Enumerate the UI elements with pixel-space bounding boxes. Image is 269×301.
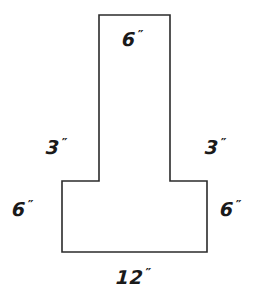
- inch-mark-icon: ″: [221, 136, 226, 149]
- dimension-label-bottom: 12″: [116, 266, 150, 287]
- dimension-label-top: 6″: [122, 28, 143, 49]
- t-shape-outline: [62, 15, 207, 252]
- dimension-label-right-lower: 6″: [220, 198, 241, 219]
- inch-mark-icon: ″: [236, 198, 241, 211]
- inch-mark-icon: ″: [138, 28, 143, 41]
- dimension-value-bottom: 12: [115, 268, 144, 287]
- dimension-value-top: 6: [121, 30, 136, 49]
- inch-mark-icon: ″: [28, 198, 33, 211]
- dimension-label-right-upper: 3″: [205, 136, 226, 157]
- dimension-value-right-lower: 6: [219, 200, 234, 219]
- dimension-value-left-lower: 6: [11, 200, 26, 219]
- dimension-value-left-upper: 3: [45, 138, 60, 157]
- inch-mark-icon: ″: [145, 266, 150, 279]
- dimension-label-left-lower: 6″: [12, 198, 33, 219]
- dimension-value-right-upper: 3: [204, 138, 219, 157]
- figure-canvas: 6″ 3″ 3″ 6″ 6″ 12″: [0, 0, 269, 301]
- dimension-label-left-upper: 3″: [46, 136, 67, 157]
- inch-mark-icon: ″: [62, 136, 67, 149]
